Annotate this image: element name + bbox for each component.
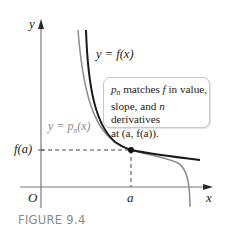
y-axis-arrow-icon: [38, 19, 44, 29]
tangent-point: [128, 147, 134, 153]
callout-box: pn matches f in value, slope, and n deri…: [103, 77, 210, 128]
callout-line-1: pn matches f in value,: [111, 83, 209, 100]
fa-tick-label: f(a): [14, 142, 32, 157]
f-curve-label: y = f(x): [96, 47, 134, 62]
callout-line-2: slope, and n derivatives: [111, 100, 209, 127]
origin-label: O: [28, 190, 37, 206]
pn-curve-label: y = pn(x): [48, 119, 91, 135]
y-axis-label: y: [29, 16, 35, 32]
taylor-polynomial-figure: y x O a f(a) y = f(x) y = pn(x) pn match…: [0, 0, 226, 228]
a-tick-label: a: [127, 190, 134, 206]
callout-line-3: at (a, f(a)).: [111, 127, 209, 141]
figure-caption: FIGURE 9.4: [18, 213, 86, 227]
x-axis-label: x: [206, 190, 212, 206]
